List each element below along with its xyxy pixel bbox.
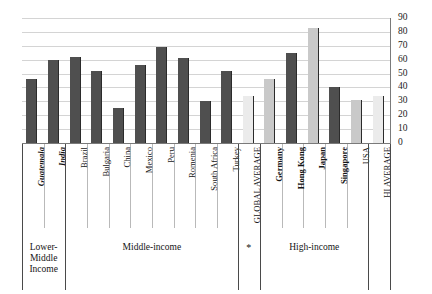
bar-mexico [135, 18, 146, 143]
bar-rect [113, 108, 124, 143]
y-tick-label: 90 [398, 13, 408, 23]
group-label: Middle-income [65, 242, 238, 253]
bar-india [48, 18, 59, 143]
bar-japan [308, 18, 319, 143]
bar-rect [70, 57, 81, 143]
y-tick-label: 50 [398, 69, 408, 79]
group-separator [390, 144, 391, 290]
bar-rect [221, 71, 232, 143]
bar-global-average [243, 18, 254, 143]
bar-brazil [70, 18, 81, 143]
y-tick-label: 40 [398, 82, 408, 92]
bar-hi-average [373, 18, 384, 143]
bar-rect [156, 47, 167, 143]
y-tick-label: 20 [398, 110, 408, 120]
y-axis-tick-labels: 9080706050403020100 [392, 0, 432, 294]
group-separator [238, 144, 239, 290]
bar-rect [135, 65, 146, 143]
group-separator [65, 144, 66, 290]
y-tick-label: 60 [398, 55, 408, 65]
y-axis-line [390, 18, 391, 143]
bar-usa [351, 18, 362, 143]
bar-germany [264, 18, 275, 143]
group-label: Lower-MiddleIncome [22, 242, 65, 275]
bar-rect [351, 100, 362, 143]
group-label-line: Income [22, 264, 65, 275]
bar-rect [264, 79, 275, 143]
group-label: High-income [260, 242, 368, 253]
bar-guatemala [26, 18, 37, 143]
bar-rect [329, 87, 340, 143]
bar-china [113, 18, 124, 143]
bar-hong-kong [286, 18, 297, 143]
group-separator [368, 144, 369, 290]
y-tick-label: 80 [398, 27, 408, 37]
bar-rect [373, 96, 384, 143]
bar-rect [178, 58, 189, 143]
group-labels: Lower-MiddleIncomeMiddle-incomeHigh-inco… [22, 144, 391, 294]
bar-series [22, 18, 390, 143]
y-tick-label: 30 [398, 96, 408, 106]
bar-bulgaria [91, 18, 102, 143]
group-label-line: High-income [260, 242, 368, 253]
bar-rect [26, 79, 37, 143]
bar-rect [48, 60, 59, 143]
y-tick-label: 0 [398, 138, 403, 148]
y-tick-label: 70 [398, 41, 408, 51]
bar-rect [243, 96, 254, 143]
bar-rect [91, 71, 102, 143]
bar-romenia [178, 18, 189, 143]
group-separator [260, 144, 261, 290]
group-label-line: Middle-income [65, 242, 238, 253]
bar-rect [200, 101, 211, 143]
group-label-line: Middle [22, 253, 65, 264]
bar-turkey [221, 18, 232, 143]
bar-peru [156, 18, 167, 143]
bar-rect [308, 28, 319, 143]
group-label-line: Lower- [22, 242, 65, 253]
bar-singapore [329, 18, 340, 143]
global-average-asterisk: * [246, 242, 251, 253]
y-tick-label: 10 [398, 124, 408, 134]
bar-south-africa [200, 18, 211, 143]
bar-rect [286, 53, 297, 143]
bar-chart: 9080706050403020100 GuatemalaIndiaBrazil… [0, 0, 432, 294]
